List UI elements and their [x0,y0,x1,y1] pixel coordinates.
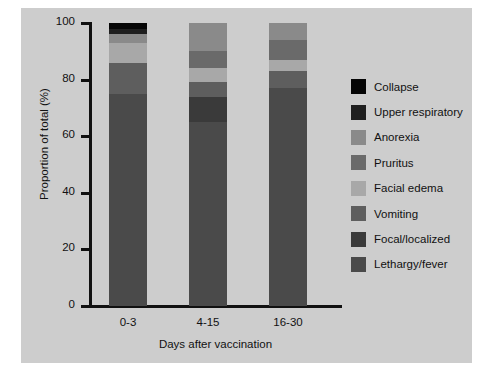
x-axis-title: Days after vaccination [89,338,342,350]
legend-swatch-icon [351,79,366,94]
chart-figure: 020406080100 Proportion of total (%) Day… [21,8,472,363]
bar-segment-vomiting[interactable] [269,71,307,88]
y-tick-40 [81,192,89,195]
bar-segment-anorexia[interactable] [269,23,307,40]
bar-4-15[interactable] [189,23,227,306]
bar-0-3[interactable] [109,23,147,306]
legend-label: Upper respiratory [374,106,463,118]
x-category-label-4-15: 4-15 [173,316,243,328]
legend-item[interactable]: Lethargy/fever [351,252,469,277]
bar-segment-pruritus[interactable] [189,51,227,68]
legend-label: Facial edema [374,182,443,194]
bar-segment-facial-edema[interactable] [189,68,227,82]
y-tick-label-0: 0 [35,299,75,309]
bar-segment-focal-localized[interactable] [189,97,227,122]
legend-swatch-icon [351,257,366,272]
legend-item[interactable]: Anorexia [351,125,469,150]
y-tick-80 [81,79,89,82]
bar-segment-facial-edema[interactable] [109,43,147,63]
y-axis-line [89,22,92,308]
legend-item[interactable]: Collapse [351,74,469,99]
y-tick-label-100: 100 [35,16,75,26]
bar-segment-anorexia[interactable] [109,34,147,42]
legend-swatch-icon [351,206,366,221]
legend-item[interactable]: Facial edema [351,176,469,201]
bar-segment-anorexia[interactable] [189,23,227,51]
chart-legend: CollapseUpper respiratoryAnorexiaPruritu… [351,74,469,277]
bar-segment-lethargy-fever[interactable] [109,94,147,306]
legend-swatch-icon [351,105,366,120]
bar-segment-facial-edema[interactable] [269,60,307,71]
bar-segment-lethargy-fever[interactable] [269,88,307,306]
legend-swatch-icon [351,181,366,196]
bar-segment-pruritus[interactable] [269,40,307,60]
bar-16-30[interactable] [269,23,307,306]
legend-item[interactable]: Pruritus [351,150,469,175]
legend-label: Vomiting [374,208,418,220]
y-tick-20 [81,248,89,251]
legend-item[interactable]: Vomiting [351,201,469,226]
legend-swatch-icon [351,155,366,170]
legend-item[interactable]: Focal/localized [351,226,469,251]
y-tick-label-20: 20 [35,242,75,252]
bar-segment-vomiting[interactable] [109,63,147,94]
legend-label: Lethargy/fever [374,258,448,270]
legend-item[interactable]: Upper respiratory [351,99,469,124]
x-category-label-16-30: 16-30 [253,316,323,328]
plot-area: 020406080100 Proportion of total (%) Day… [21,8,472,363]
legend-swatch-icon [351,232,366,247]
legend-label: Anorexia [374,131,419,143]
legend-swatch-icon [351,130,366,145]
legend-label: Collapse [374,81,419,93]
x-category-label-0-3: 0-3 [93,316,163,328]
y-axis-title: Proportion of total (%) [38,59,50,229]
bar-segment-lethargy-fever[interactable] [189,122,227,306]
legend-label: Focal/localized [374,233,450,245]
y-tick-60 [81,135,89,138]
bar-segment-vomiting[interactable] [189,82,227,96]
y-tick-0 [81,305,89,308]
legend-label: Pruritus [374,157,414,169]
y-tick-100 [81,22,89,25]
